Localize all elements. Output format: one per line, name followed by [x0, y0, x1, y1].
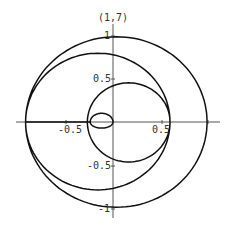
y-label-neg-one: -1 [98, 203, 110, 214]
y-label-neg-half: -0.5 [87, 160, 111, 171]
spiral-plot: (1,7) -0.5 0.5 1 0.5 -0.5 -1 [0, 0, 227, 235]
x-label-neg-half: -0.5 [58, 124, 82, 135]
chart-title: (1,7) [98, 12, 128, 23]
x-label-pos-half: 0.5 [152, 124, 170, 135]
y-label-one: 1 [104, 30, 110, 41]
y-label-half: 0.5 [93, 73, 111, 84]
